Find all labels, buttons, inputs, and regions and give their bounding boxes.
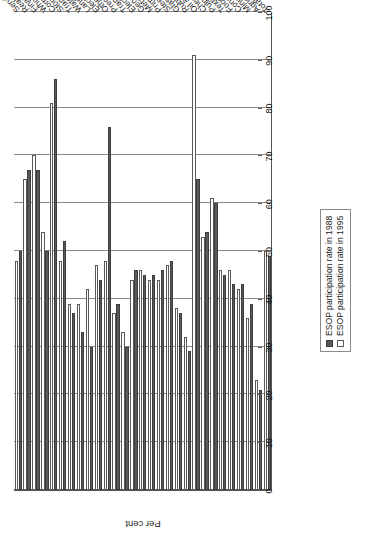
legend-label-series1: ESOP participation rate in 1988 <box>325 216 334 336</box>
bar-series2 <box>255 380 258 490</box>
value-axis-title: Per cent <box>14 519 272 530</box>
value-axis-title-wrap: Per cent <box>14 516 272 530</box>
bar-series2 <box>41 232 44 490</box>
axis-tick <box>258 442 262 443</box>
axis-tick-label: 40 <box>264 295 274 305</box>
bar-series1 <box>134 270 137 490</box>
bar-series2 <box>246 318 249 490</box>
bar-series2 <box>148 280 151 490</box>
axis-tick-label: 30 <box>264 343 274 353</box>
axis-tick <box>258 299 262 300</box>
bar-series1 <box>54 79 57 490</box>
bar-series2 <box>157 280 160 490</box>
gridline <box>14 59 271 60</box>
bar-series1 <box>81 332 84 490</box>
axis-tick-label: 70 <box>264 151 274 161</box>
bar-series2 <box>32 155 35 490</box>
bar-series2 <box>237 289 240 490</box>
bar-series1 <box>143 275 146 490</box>
bar-series2 <box>139 270 142 490</box>
bar-series2 <box>201 237 204 490</box>
bar-series1 <box>90 347 93 490</box>
bar-series1 <box>45 251 48 490</box>
bar-series1 <box>241 284 244 490</box>
bar-series1 <box>196 179 199 490</box>
plot-area <box>14 13 272 491</box>
axis-tick <box>258 108 262 109</box>
bar-series1 <box>188 351 191 490</box>
axis-tick-label: 0 <box>264 488 274 493</box>
bar-series2 <box>210 198 213 490</box>
bar-series1 <box>116 304 119 490</box>
chart-legend: ESOP participation rate in 1988 ESOP par… <box>320 209 351 352</box>
bar-series1 <box>125 347 128 490</box>
axis-tick <box>258 347 262 348</box>
axis-tick <box>258 155 262 156</box>
bar-series1 <box>152 275 155 490</box>
bar-series1 <box>170 261 173 490</box>
axis-tick <box>258 394 262 395</box>
bar-series1 <box>63 241 66 490</box>
legend-label-series2: ESOP participation rate in 1995 <box>336 216 345 336</box>
bar-series2 <box>219 270 222 490</box>
bar-series1 <box>108 127 111 490</box>
bar-series1 <box>179 313 182 490</box>
bar-series2 <box>23 179 26 490</box>
axis-tick-label: 10 <box>264 438 274 448</box>
bar-series2 <box>121 332 124 490</box>
bar-series2 <box>15 261 18 490</box>
bar-series1 <box>72 313 75 490</box>
bar-series1 <box>161 270 164 490</box>
chart-figure: Per cent 0102030405060708090100 TotalAgr… <box>0 0 365 548</box>
legend-item: ESOP participation rate in 1988 <box>324 216 335 347</box>
axis-tick-label: 80 <box>264 104 274 114</box>
bar-series1 <box>27 170 30 490</box>
bar-series2 <box>59 261 62 490</box>
axis-tick-label: 60 <box>264 199 274 209</box>
axis-tick <box>258 251 262 252</box>
bar-series2 <box>86 289 89 490</box>
axis-tick <box>258 60 262 61</box>
axis-tick-label: 50 <box>264 247 274 257</box>
bar-series1 <box>19 251 22 490</box>
bar-series2 <box>184 337 187 490</box>
bar-series1 <box>214 203 217 490</box>
bar-series2 <box>50 103 53 490</box>
bar-series1 <box>268 256 271 490</box>
axis-tick <box>258 490 262 491</box>
bar-series2 <box>192 55 195 490</box>
bar-series1 <box>205 232 208 490</box>
bar-series2 <box>175 308 178 490</box>
bar-series2 <box>264 251 267 490</box>
bar-series2 <box>166 265 169 490</box>
bar-series2 <box>95 265 98 490</box>
bar-series1 <box>99 280 102 490</box>
bar-series1 <box>232 284 235 490</box>
bar-series1 <box>259 390 262 490</box>
bar-series2 <box>112 313 115 490</box>
legend-swatch-series2-icon <box>337 340 344 347</box>
legend-item: ESOP participation rate in 1995 <box>335 216 346 347</box>
bar-series1 <box>223 275 226 490</box>
bar-series2 <box>130 280 133 490</box>
bar-series2 <box>104 261 107 490</box>
bar-series1 <box>250 304 253 490</box>
chart-canvas: Per cent 0102030405060708090100 TotalAgr… <box>0 0 365 548</box>
axis-tick-label: 20 <box>264 390 274 400</box>
bar-series2 <box>77 304 80 490</box>
bar-series1 <box>36 170 39 490</box>
axis-tick-label: 90 <box>264 56 274 66</box>
bar-series2 <box>68 304 71 490</box>
bar-series2 <box>228 270 231 490</box>
axis-tick <box>258 203 262 204</box>
legend-swatch-series1-icon <box>326 340 333 347</box>
